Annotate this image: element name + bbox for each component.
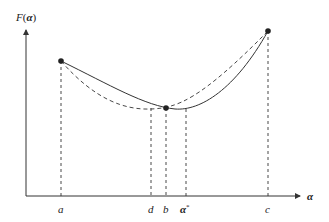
tick-label-a: a bbox=[58, 203, 64, 215]
x-axis-label: α bbox=[307, 190, 314, 202]
point-b bbox=[163, 105, 169, 111]
dashed-quadratic-curve bbox=[61, 31, 268, 109]
tick-label-c: c bbox=[265, 203, 270, 215]
point-c bbox=[265, 28, 271, 34]
line-search-diagram: F(α) α a d b α* c bbox=[0, 0, 329, 222]
tick-label-b: b bbox=[163, 203, 169, 215]
tick-label-alpha-star: α* bbox=[180, 203, 190, 215]
solid-function-curve bbox=[61, 31, 268, 109]
tick-label-d: d bbox=[148, 203, 154, 215]
point-a bbox=[58, 58, 64, 64]
y-axis-label: F(α) bbox=[15, 11, 37, 24]
